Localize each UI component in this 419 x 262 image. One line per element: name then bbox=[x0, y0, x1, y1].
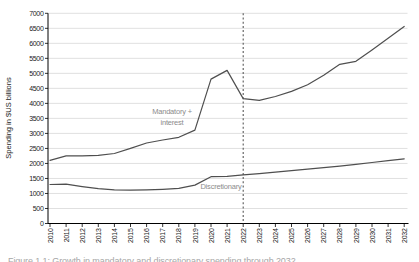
series-lines bbox=[50, 27, 404, 191]
x-tick-label: 2017 bbox=[159, 228, 166, 243]
x-tick-label: 2026 bbox=[304, 228, 311, 243]
line-chart: 0500100015002000250030003500400045005000… bbox=[0, 0, 419, 262]
x-tick-label: 2018 bbox=[175, 228, 182, 243]
x-tick-label: 2010 bbox=[47, 228, 54, 243]
x-tick-label: 2030 bbox=[369, 228, 376, 243]
x-tick-label: 2025 bbox=[288, 228, 295, 243]
x-tick-label: 2029 bbox=[353, 228, 360, 243]
y-tick-label: 4000 bbox=[29, 100, 44, 107]
series-label-line1: Mandatory + bbox=[144, 106, 200, 117]
y-tick-label: 5500 bbox=[29, 55, 44, 62]
x-tick-label: 2015 bbox=[127, 228, 134, 243]
grid-lines bbox=[48, 13, 408, 208]
y-tick-label: 7000 bbox=[29, 10, 44, 17]
series-label-line1: Discretionary bbox=[199, 181, 243, 192]
series-label-discretionary: Discretionary bbox=[199, 181, 243, 192]
x-tick-label: 2019 bbox=[192, 228, 199, 243]
x-axis-tick-labels: 2010201120122013201420152016201720182019… bbox=[47, 228, 408, 243]
y-tick-label: 2000 bbox=[29, 160, 44, 167]
y-tick-label: 6500 bbox=[29, 25, 44, 32]
x-tick-label: 2011 bbox=[63, 228, 70, 242]
x-tick-label: 2027 bbox=[320, 228, 327, 243]
spending-chart-figure: 0500100015002000250030003500400045005000… bbox=[0, 0, 419, 262]
y-axis-title: Spending in $US billions bbox=[4, 77, 13, 159]
y-tick-label: 2500 bbox=[29, 145, 44, 152]
x-tick-label: 2022 bbox=[240, 228, 247, 243]
y-tick-label: 500 bbox=[33, 205, 44, 212]
y-tick-label: 4500 bbox=[29, 85, 44, 92]
x-tick-label: 2032 bbox=[401, 228, 408, 243]
y-tick-label: 6000 bbox=[29, 40, 44, 47]
y-tick-label: 5000 bbox=[29, 70, 44, 77]
x-tick-label: 2021 bbox=[224, 228, 231, 243]
y-axis-tick-labels: 0500100015002000250030003500400045005000… bbox=[29, 10, 44, 227]
x-tick-label: 2016 bbox=[143, 228, 150, 243]
y-tick-label: 0 bbox=[40, 220, 44, 227]
x-tick-label: 2028 bbox=[336, 228, 343, 243]
x-tick-label: 2013 bbox=[95, 228, 102, 243]
y-tick-label: 3000 bbox=[29, 130, 44, 137]
figure-caption-truncated: Figure 1.1: Growth in mandatory and disc… bbox=[8, 256, 416, 262]
x-tick-label: 2012 bbox=[79, 228, 86, 243]
axes bbox=[45, 13, 409, 227]
x-tick-label: 2031 bbox=[385, 228, 392, 243]
series-line-mandatory-interest bbox=[50, 27, 404, 161]
x-tick-label: 2023 bbox=[256, 228, 263, 243]
series-label-mandatory-interest: Mandatory + interest bbox=[144, 106, 200, 128]
x-tick-label: 2024 bbox=[272, 228, 279, 243]
y-tick-label: 1500 bbox=[29, 175, 44, 182]
series-label-line2: interest bbox=[144, 117, 200, 128]
y-tick-label: 1000 bbox=[29, 190, 44, 197]
y-tick-label: 3500 bbox=[29, 115, 44, 122]
x-tick-label: 2020 bbox=[208, 228, 215, 243]
x-tick-label: 2014 bbox=[111, 228, 118, 243]
